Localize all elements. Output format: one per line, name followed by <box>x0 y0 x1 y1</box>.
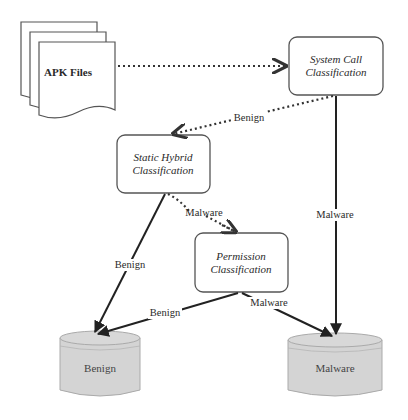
edge-label-malware-3: Malware <box>250 297 288 308</box>
static-hybrid-classification-node: Static Hybrid Classification <box>117 135 210 193</box>
edge-label-malware-1: Malware <box>316 209 354 220</box>
system-call-label-line1: System Call <box>310 53 362 65</box>
benign-store-label: Benign <box>84 362 116 374</box>
apk-files-node: APK Files <box>21 22 115 118</box>
edge-label-malware-2: Malware <box>185 207 223 218</box>
static-hybrid-label-line1: Static Hybrid <box>134 151 193 163</box>
document-icon <box>39 42 115 118</box>
malware-store-label: Malware <box>315 362 354 374</box>
malware-store-node: Malware <box>288 333 382 396</box>
apk-files-label: APK Files <box>44 66 93 78</box>
edge-label-benign-1: Benign <box>234 112 265 123</box>
static-hybrid-label-line2: Classification <box>132 164 194 176</box>
permission-label-line1: Permission <box>215 250 266 262</box>
benign-store-node: Benign <box>60 331 140 396</box>
edge-label-benign-3: Benign <box>150 307 181 318</box>
edge-label-benign-2: Benign <box>115 259 146 270</box>
system-call-label-line2: Classification <box>305 66 367 78</box>
permission-label-line2: Classification <box>210 263 272 275</box>
permission-classification-node: Permission Classification <box>195 233 288 292</box>
system-call-classification-node: System Call Classification <box>289 37 383 95</box>
flow-diagram: APK Files System Call Classification Sta… <box>0 0 408 420</box>
